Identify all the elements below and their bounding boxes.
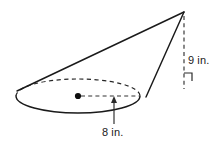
- geometry-figure-canvas: 9 in. 8 in.: [0, 0, 221, 142]
- radius-leader-arrow-icon: [111, 96, 117, 103]
- cone-left-slant-edge: [17, 12, 184, 91]
- radius-dimension-label: 8 in.: [102, 126, 123, 138]
- oblique-cone-drawing: [0, 0, 221, 142]
- right-angle-marker-icon: [184, 73, 192, 81]
- height-dimension-label: 9 in.: [188, 54, 209, 66]
- cone-right-slant-edge: [146, 12, 184, 97]
- base-center-dot: [75, 93, 81, 99]
